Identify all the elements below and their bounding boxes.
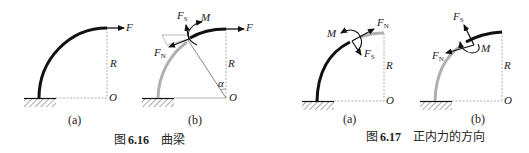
caption-title: 曲梁 bbox=[161, 133, 185, 147]
figure-caption-6-16: 图6.16曲梁 bbox=[114, 134, 185, 146]
radius-label: R bbox=[386, 60, 393, 71]
origin-label: O bbox=[229, 92, 237, 103]
moment-label: M bbox=[327, 28, 336, 39]
fixed-support-hatch bbox=[24, 99, 56, 107]
moment-label: M bbox=[201, 12, 210, 23]
caption-title: 正内力的方向 bbox=[413, 130, 485, 144]
origin-label: O bbox=[109, 92, 117, 103]
fig-6-17-b-drawing bbox=[420, 25, 502, 110]
panel-label-b: (b) bbox=[188, 114, 202, 126]
caption-prefix: 图 bbox=[114, 133, 126, 147]
panel-label-a: (a) bbox=[68, 114, 81, 126]
figure-caption-6-17: 图6.17正内力的方向 bbox=[366, 131, 485, 143]
curved-beam-cut bbox=[190, 29, 226, 38]
force-label: F bbox=[126, 22, 133, 33]
panel-label-a: (a) bbox=[343, 113, 356, 125]
caption-prefix: 图 bbox=[366, 130, 378, 144]
radius-label: R bbox=[228, 58, 235, 69]
moment-label: M bbox=[481, 43, 490, 54]
normal-force-label: FN bbox=[432, 50, 444, 63]
caption-number: 6.16 bbox=[128, 133, 149, 147]
shear-force-label: FS bbox=[364, 48, 375, 61]
shear-force-label: FS bbox=[453, 11, 464, 24]
normal-force-label: FN bbox=[154, 47, 166, 60]
angle-line bbox=[188, 40, 226, 98]
radius-label: R bbox=[504, 60, 511, 71]
panel-label-b: (b) bbox=[471, 113, 485, 125]
normal-force-label: FN bbox=[377, 17, 389, 30]
curved-beam bbox=[39, 28, 107, 98]
angle-alpha-label: α bbox=[218, 78, 224, 89]
force-label: F bbox=[246, 22, 253, 33]
origin-label: O bbox=[504, 95, 512, 106]
radius-label: R bbox=[110, 58, 117, 69]
caption-number: 6.17 bbox=[380, 130, 401, 144]
shear-force-label: FS bbox=[177, 10, 188, 23]
origin-label: O bbox=[386, 95, 394, 106]
fig-6-17-a-drawing bbox=[302, 29, 384, 110]
